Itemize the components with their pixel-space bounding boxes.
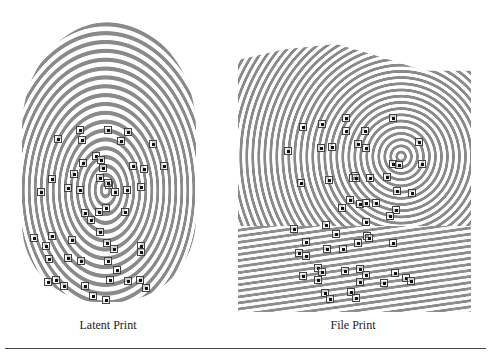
minutia-marker (104, 126, 112, 134)
minutia-marker (45, 255, 53, 263)
minutia-marker (30, 234, 38, 242)
minutia-marker (110, 245, 118, 253)
minutia-marker (366, 174, 374, 182)
minutia-marker (302, 252, 310, 260)
minutia-marker (380, 279, 388, 287)
minutia-marker (318, 268, 326, 276)
minutia-marker (99, 164, 107, 172)
minutia-marker (52, 276, 60, 284)
minutia-marker (76, 126, 84, 134)
minutia-marker (124, 277, 132, 285)
minutia-marker (76, 186, 84, 194)
minutia-marker (342, 127, 350, 135)
latent-print-caption: Latent Print (38, 318, 178, 333)
minutia-marker (96, 228, 104, 236)
minutia-marker (352, 294, 360, 302)
minutia-marker (121, 208, 129, 216)
minutia-marker (393, 187, 401, 195)
file-print-caption: File Print (283, 318, 423, 333)
minutia-marker (341, 267, 349, 275)
minutia-marker (89, 292, 97, 300)
minutia-marker (48, 175, 56, 183)
minutia-marker (104, 179, 112, 187)
minutia-marker (117, 137, 125, 145)
minutia-marker (78, 136, 86, 144)
minutia-marker (415, 138, 423, 146)
minutia-marker (68, 236, 76, 244)
minutia-marker (362, 271, 370, 279)
minutia-marker (372, 199, 380, 207)
minutia-marker (299, 123, 307, 131)
minutia-marker (137, 183, 145, 191)
minutia-marker (137, 248, 145, 256)
minutia-marker (342, 114, 350, 122)
minutia-marker (77, 257, 85, 265)
minutia-marker (113, 266, 121, 274)
minutia-marker (81, 282, 89, 290)
fingerprint-comparison-figure: Latent Print File Print (0, 0, 491, 355)
minutia-marker (326, 295, 334, 303)
minutia-marker (64, 254, 72, 262)
minutia-marker (140, 165, 148, 173)
minutia-marker (314, 276, 322, 284)
minutia-marker (352, 174, 360, 182)
minutia-marker (338, 204, 346, 212)
horizontal-rule (5, 348, 486, 349)
minutia-marker (365, 234, 373, 242)
minutia-marker (302, 238, 310, 246)
minutia-marker (395, 161, 403, 169)
minutia-marker (290, 225, 298, 233)
minutia-marker (96, 174, 104, 182)
minutia-marker (106, 276, 114, 284)
minutia-marker (318, 120, 326, 128)
minutia-marker (407, 277, 415, 285)
minutia-marker (37, 188, 45, 196)
minutia-marker (149, 140, 157, 148)
minutia-marker (322, 221, 330, 229)
minutia-marker (87, 216, 95, 224)
minutia-marker (284, 147, 292, 155)
minutia-marker (346, 196, 354, 204)
minutia-marker (418, 160, 426, 168)
minutia-marker (339, 245, 347, 253)
minutia-marker (325, 176, 333, 184)
minutia-marker (136, 276, 144, 284)
minutia-marker (383, 173, 391, 181)
minutia-marker (48, 232, 56, 240)
minutia-marker (129, 162, 137, 170)
minutia-marker (54, 135, 62, 143)
minutia-marker (362, 218, 370, 226)
minutia-marker (317, 144, 325, 152)
minutia-marker (391, 269, 399, 277)
minutia-marker (79, 159, 87, 167)
minutia-marker (124, 128, 132, 136)
minutia-marker (123, 186, 131, 194)
minutia-marker (111, 188, 119, 196)
minutia-marker (362, 199, 370, 207)
minutia-marker (44, 278, 52, 286)
minutia-marker (104, 257, 112, 265)
minutia-marker (102, 204, 110, 212)
minutia-marker (323, 245, 331, 253)
minutia-marker (299, 272, 307, 280)
minutia-marker (361, 127, 369, 135)
minutia-marker (389, 239, 397, 247)
minutia-marker (160, 162, 168, 170)
minutia-marker (297, 179, 305, 187)
minutia-marker (408, 189, 416, 197)
minutia-marker (356, 278, 364, 286)
minutia-marker (60, 282, 68, 290)
minutia-marker (386, 212, 394, 220)
minutia-marker (64, 184, 72, 192)
minutia-marker (97, 156, 105, 164)
minutia-marker (389, 114, 397, 122)
minutia-marker (362, 144, 370, 152)
minutia-marker (332, 230, 340, 238)
minutia-marker (354, 140, 362, 148)
minutia-marker (142, 284, 150, 292)
minutia-marker (354, 239, 362, 247)
minutia-marker (70, 170, 78, 178)
minutia-marker (328, 143, 336, 151)
minutia-marker (42, 242, 50, 250)
minutia-marker (102, 296, 110, 304)
